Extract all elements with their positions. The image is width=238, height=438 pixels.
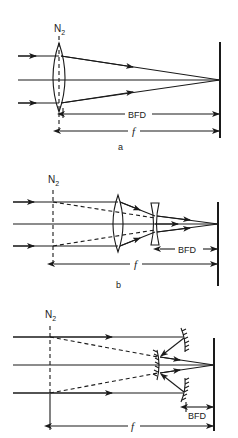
- bfd-label-b: BFD: [178, 245, 197, 255]
- bfd-label-c: BFD: [188, 411, 207, 421]
- bfd-label-a: BFD: [128, 110, 147, 120]
- caption-a: a: [118, 142, 123, 152]
- optical-diagram: N2 BFD f a N2: [0, 0, 238, 438]
- focal-length-label-b: f: [134, 258, 139, 270]
- plane-label-b: N2: [48, 174, 59, 187]
- panel-a: N2 BFD f a: [18, 23, 220, 152]
- focal-length-label-a: f: [132, 125, 137, 137]
- plane-label-a: N2: [54, 23, 65, 36]
- plane-label-c: N2: [45, 309, 56, 322]
- caption-b: b: [116, 280, 121, 290]
- panel-c: N2 B: [13, 309, 214, 432]
- focal-length-label-c: f: [131, 420, 136, 432]
- panel-b: N2 BFD f b: [13, 174, 218, 290]
